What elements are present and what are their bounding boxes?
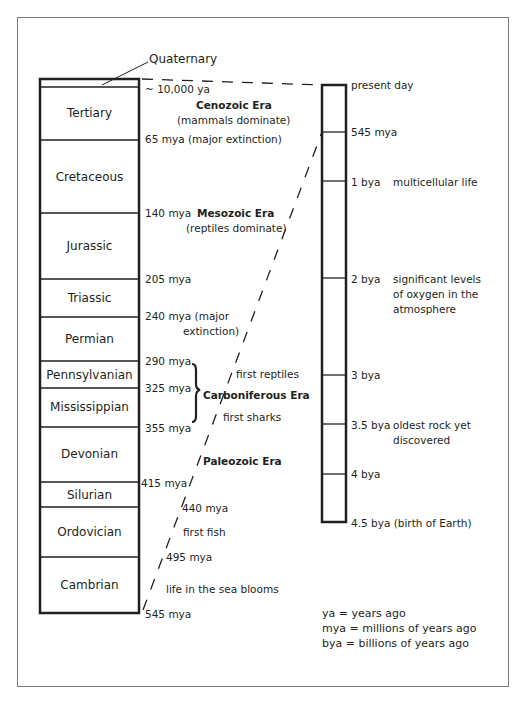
period-mississippian: Mississippian — [40, 400, 139, 414]
era-mesozoic: Mesozoic Era — [197, 207, 274, 220]
label-4bya: 4 bya — [351, 468, 380, 481]
note-oxygen-3: atmosphere — [393, 303, 456, 316]
label-1bya: 1 bya — [351, 176, 380, 189]
label-415mya: 415 mya — [141, 477, 187, 490]
legend-ya: ya = years ago — [322, 606, 406, 621]
period-pennsylvanian: Pennsylvanian — [40, 368, 139, 382]
note-oldest-rock-1: oldest rock yet — [393, 419, 471, 432]
quaternary-leader — [102, 62, 148, 85]
label-3bya: 3 bya — [351, 369, 380, 382]
label-10000ya: ~ 10,000 ya — [145, 83, 210, 96]
label-4-5bya: 4.5 bya (birth of Earth) — [351, 517, 472, 530]
label-240mya-cont: extinction) — [183, 325, 239, 338]
legend-mya: mya = millions of years ago — [322, 621, 476, 636]
period-tertiary: Tertiary — [40, 106, 139, 120]
period-triassic: Triassic — [40, 291, 139, 305]
note-oxygen-1: significant levels — [393, 273, 481, 286]
period-boundaries — [40, 87, 139, 557]
label-545mya: 545 mya — [145, 608, 191, 621]
period-jurassic: Jurassic — [40, 239, 139, 253]
period-silurian: Silurian — [40, 488, 139, 502]
earth-history-column-outline — [322, 85, 346, 522]
period-ordovician: Ordovician — [40, 525, 139, 539]
period-cretaceous: Cretaceous — [40, 170, 139, 184]
label-3-5bya: 3.5 bya — [351, 419, 390, 432]
label-205mya: 205 mya — [145, 273, 191, 286]
era-cenozoic: Cenozoic Era — [196, 99, 272, 112]
event-first-sharks: first sharks — [223, 411, 281, 424]
period-permian: Permian — [40, 332, 139, 346]
event-first-reptiles: first reptiles — [236, 368, 299, 381]
event-first-fish: first fish — [183, 526, 226, 539]
period-devonian: Devonian — [40, 447, 139, 461]
note-oldest-rock-2: discovered — [393, 434, 450, 447]
earth-history-ticks — [322, 132, 346, 474]
era-mesozoic-note: (reptiles dominate) — [186, 222, 287, 235]
era-carboniferous: Carboniferous Era — [203, 389, 310, 402]
label-290mya: 290 mya — [145, 355, 191, 368]
label-240mya: 240 mya (major — [145, 310, 229, 323]
quaternary-callout: Quaternary — [149, 53, 217, 66]
label-present-day: present day — [351, 79, 414, 92]
era-paleozoic: Paleozoic Era — [203, 455, 282, 468]
label-2bya: 2 bya — [351, 273, 380, 286]
label-355mya: 355 mya — [145, 422, 191, 435]
label-440mya: 440 mya — [182, 502, 228, 515]
label-140mya: 140 mya — [145, 207, 191, 220]
label-65mya: 65 mya (major extinction) — [145, 133, 282, 146]
period-cambrian: Cambrian — [40, 578, 139, 592]
legend-bya: bya = billions of years ago — [322, 636, 469, 651]
note-oxygen-2: of oxygen in the — [393, 288, 478, 301]
event-sea-blooms: life in the sea blooms — [166, 583, 279, 596]
carboniferous-brace-icon — [192, 364, 200, 422]
label-325mya: 325 mya — [145, 382, 191, 395]
label-495mya: 495 mya — [166, 551, 212, 564]
label-right-545mya: 545 mya — [351, 126, 397, 139]
era-cenozoic-note: (mammals dominate) — [177, 114, 290, 127]
note-multicellular-life: multicellular life — [393, 176, 478, 189]
